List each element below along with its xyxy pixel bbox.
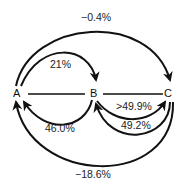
edge-label-b-to-c: >49.9% xyxy=(116,101,152,112)
edge-label-c-to-b: 49.2% xyxy=(121,120,151,131)
node-a: A xyxy=(13,88,20,99)
edge-label-b-to-a: 46.0% xyxy=(45,123,75,134)
node-c: C xyxy=(164,88,172,99)
edge-label-a-to-b: 21% xyxy=(50,59,71,70)
arrow-a-to-c xyxy=(16,32,170,86)
arrow-b-to-a xyxy=(24,100,92,125)
edge-label-c-to-a: −18.6% xyxy=(75,169,111,180)
edge-label-a-to-c: −0.4% xyxy=(81,12,111,23)
node-b: B xyxy=(90,88,97,99)
